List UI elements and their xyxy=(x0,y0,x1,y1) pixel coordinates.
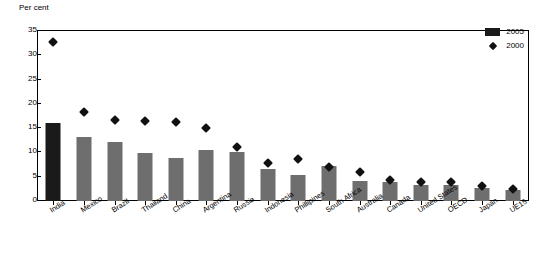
y-tick-label: 15 xyxy=(23,123,37,131)
legend-item-2000: 2000 xyxy=(485,41,524,51)
bar-group xyxy=(375,31,406,201)
legend-diamond-swatch-icon xyxy=(485,42,500,50)
plot-area xyxy=(38,31,528,201)
diamond-marker-2000 xyxy=(263,158,273,168)
chart-container: Per cent 05101520253035 IndiaMexicoBrazi… xyxy=(0,0,538,275)
diamond-marker-2000 xyxy=(171,117,181,127)
bar-2005 xyxy=(168,158,183,201)
diamond-marker-2000 xyxy=(232,142,242,152)
y-tick-mark xyxy=(37,176,41,177)
bar-2005 xyxy=(107,142,122,201)
legend-item-2005: 2005 xyxy=(485,27,524,37)
bar-group xyxy=(130,31,161,201)
diamond-marker-2000 xyxy=(110,115,120,125)
bar-2005 xyxy=(383,182,398,201)
diamond-marker-2000 xyxy=(79,107,89,117)
legend-label-2000: 2000 xyxy=(506,42,524,50)
legend-bar-swatch-icon xyxy=(485,28,500,36)
y-tick-label: 25 xyxy=(23,75,37,83)
y-tick-mark xyxy=(37,200,41,201)
bar-group xyxy=(283,31,314,201)
bar-group xyxy=(344,31,375,201)
bar-2005 xyxy=(138,153,153,201)
bar-group xyxy=(222,31,253,201)
bar-group xyxy=(161,31,192,201)
diamond-marker-2000 xyxy=(48,37,58,47)
bar-2005 xyxy=(46,123,61,201)
bar-group xyxy=(314,31,345,201)
y-tick-label: 0 xyxy=(23,196,37,204)
y-tick-mark xyxy=(37,151,41,152)
bar-group xyxy=(406,31,437,201)
chart-legend: 2005 2000 xyxy=(485,27,524,51)
y-tick-label: 20 xyxy=(23,99,37,107)
y-tick-mark xyxy=(37,127,41,128)
y-tick-mark xyxy=(37,30,41,31)
y-axis-ticks: 05101520253035 xyxy=(19,30,37,201)
diamond-marker-2000 xyxy=(293,154,303,164)
bar-2005 xyxy=(413,185,428,201)
bar-group xyxy=(252,31,283,201)
diamond-marker-2000 xyxy=(201,123,211,133)
y-tick-mark xyxy=(37,54,41,55)
bar-group xyxy=(191,31,222,201)
bar-group xyxy=(467,31,498,201)
bar-2005 xyxy=(76,137,91,201)
bar-group xyxy=(69,31,100,201)
bar-group xyxy=(497,31,528,201)
bar-group xyxy=(436,31,467,201)
y-tick-label: 10 xyxy=(23,147,37,155)
y-tick-mark xyxy=(37,79,41,80)
bar-2005 xyxy=(230,152,245,201)
diamond-marker-2000 xyxy=(140,116,150,126)
bar-2005 xyxy=(199,150,214,201)
diamond-marker-2000 xyxy=(355,167,365,177)
legend-label-2005: 2005 xyxy=(506,28,524,36)
y-tick-label: 5 xyxy=(23,172,37,180)
y-tick-mark xyxy=(37,103,41,104)
bar-group xyxy=(38,31,69,201)
bar-group xyxy=(99,31,130,201)
y-axis-title: Per cent xyxy=(19,3,49,12)
y-tick-label: 30 xyxy=(23,50,37,58)
bar-2005 xyxy=(260,169,275,201)
y-tick-label: 35 xyxy=(23,26,37,34)
